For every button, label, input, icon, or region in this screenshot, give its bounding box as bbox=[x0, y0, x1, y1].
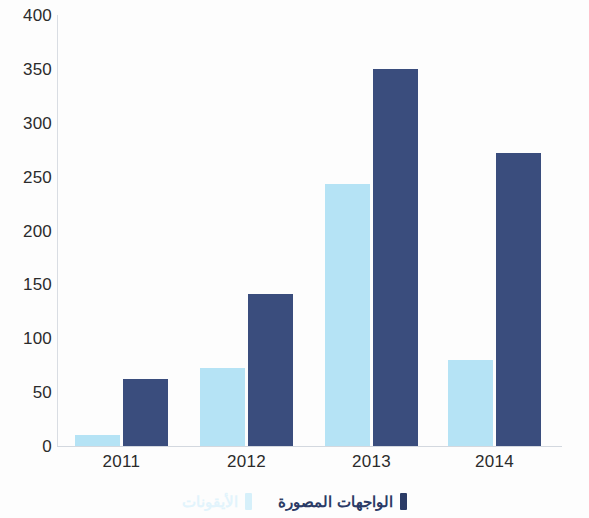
y-axis-tick-labels: 050100150200250300350400 bbox=[0, 0, 52, 518]
x-axis-line bbox=[57, 446, 562, 447]
bar-group bbox=[325, 15, 418, 446]
legend-item[interactable]: الأيقونات bbox=[182, 493, 252, 510]
y-axis-tick: 150 bbox=[4, 276, 52, 293]
bar-group bbox=[75, 15, 168, 446]
bar-chart: 050100150200250300350400 201120122013201… bbox=[0, 0, 589, 518]
y-axis-tick: 250 bbox=[4, 168, 52, 185]
legend-item[interactable]: الواجهات المصورة bbox=[278, 493, 406, 510]
x-axis-tick: 2011 bbox=[82, 452, 162, 472]
x-axis-tick: 2014 bbox=[455, 452, 535, 472]
x-axis-tick: 2012 bbox=[207, 452, 287, 472]
y-axis-tick: 400 bbox=[4, 7, 52, 24]
legend-label: الأيقونات bbox=[182, 494, 238, 509]
legend-swatch-icon bbox=[245, 493, 252, 510]
legend-label: الواجهات المصورة bbox=[278, 494, 392, 509]
legend-swatch-icon bbox=[400, 493, 407, 510]
y-axis-tick: 50 bbox=[4, 384, 52, 401]
bar bbox=[200, 368, 245, 446]
bar bbox=[373, 69, 418, 446]
y-axis-tick: 350 bbox=[4, 60, 52, 77]
bar bbox=[123, 379, 168, 446]
y-axis-tick: 200 bbox=[4, 222, 52, 239]
y-axis-tick: 300 bbox=[4, 114, 52, 131]
bar-group bbox=[200, 15, 293, 446]
y-axis-tick: 100 bbox=[4, 330, 52, 347]
plot-area bbox=[57, 15, 562, 446]
x-axis-tick: 2013 bbox=[332, 452, 412, 472]
bar bbox=[325, 184, 370, 446]
bar bbox=[496, 153, 541, 446]
chart-legend: الأيقوناتالواجهات المصورة bbox=[0, 488, 589, 514]
bar bbox=[75, 435, 120, 446]
y-axis-tick: 0 bbox=[4, 438, 52, 455]
bar-group bbox=[448, 15, 541, 446]
bar bbox=[248, 294, 293, 446]
bar bbox=[448, 360, 493, 446]
